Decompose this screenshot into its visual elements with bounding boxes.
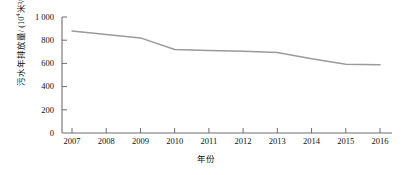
x-tick-label-2012: 2012 (226, 136, 260, 146)
x-tick-label-2014: 2014 (295, 136, 329, 146)
x-tick-label-2008: 2008 (89, 136, 123, 146)
x-axis-title: 年份 (0, 152, 412, 164)
x-tick-label-2013: 2013 (260, 136, 294, 146)
x-tick-label-2015: 2015 (329, 136, 363, 146)
x-tick-label-2007: 2007 (55, 136, 89, 146)
y-axis-ticks (62, 17, 67, 110)
plot-area (0, 0, 412, 175)
data-series-line (72, 31, 380, 65)
x-tick-label-2016: 2016 (363, 136, 397, 146)
x-tick-label-2009: 2009 (123, 136, 157, 146)
x-tick-label-2010: 2010 (158, 136, 192, 146)
chart-container: 污水年排放量/ (104米³/年) 1 000 800 600 400 200 … (0, 0, 412, 175)
x-tick-label-2011: 2011 (192, 136, 226, 146)
x-axis-ticks (72, 128, 380, 133)
